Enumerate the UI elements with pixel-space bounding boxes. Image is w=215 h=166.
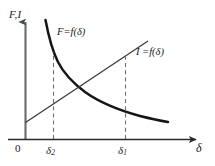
plot-canvas — [0, 0, 215, 166]
tick-label-delta1: δ1 — [118, 145, 127, 157]
curve-increasing-I — [26, 41, 149, 123]
tick-label-delta1-subscript: 1 — [123, 148, 127, 157]
curve-label-increasing: I =f(δ) — [136, 47, 164, 58]
origin-label: 0 — [15, 143, 21, 154]
y-axis-label: F,I — [9, 9, 21, 20]
tick-label-delta2-subscript: 2 — [51, 148, 55, 157]
x-axis-label: δ — [196, 142, 202, 154]
curve-label-decreasing: F=f(δ) — [57, 27, 85, 38]
function-graph-figure: F,I δ 0 F=f(δ) I =f(δ) δ2 δ1 — [0, 0, 215, 166]
tick-label-delta2: δ2 — [46, 145, 55, 157]
